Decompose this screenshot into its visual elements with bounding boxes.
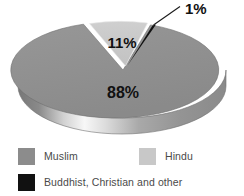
legend-item-muslim[interactable]: Muslim	[18, 148, 78, 165]
pie-graphic: 88% 11% 1%	[0, 0, 244, 142]
legend-swatch-other	[18, 174, 35, 191]
data-label-muslim: 88%	[107, 84, 139, 101]
leader-line-other	[154, 7, 181, 26]
pie-svg: 88% 11% 1%	[0, 0, 244, 142]
legend-label-other: Buddhist, Christian and other	[44, 176, 182, 188]
legend-swatch-hindu	[139, 148, 156, 165]
pie-chart: 88% 11% 1% Muslim Hindu Buddhist, Christ…	[0, 0, 244, 196]
legend-item-hindu[interactable]: Hindu	[139, 148, 193, 165]
legend-row: Buddhist, Christian and other	[0, 170, 244, 194]
legend-label-hindu: Hindu	[165, 150, 193, 162]
legend-item-other[interactable]: Buddhist, Christian and other	[18, 174, 182, 191]
data-label-other: 1%	[185, 0, 207, 17]
legend-label-muslim: Muslim	[44, 150, 78, 162]
legend-row: Muslim Hindu	[0, 144, 244, 168]
legend-swatch-muslim	[18, 148, 35, 165]
data-label-hindu: 11%	[107, 34, 136, 51]
legend: Muslim Hindu Buddhist, Christian and oth…	[0, 142, 244, 196]
